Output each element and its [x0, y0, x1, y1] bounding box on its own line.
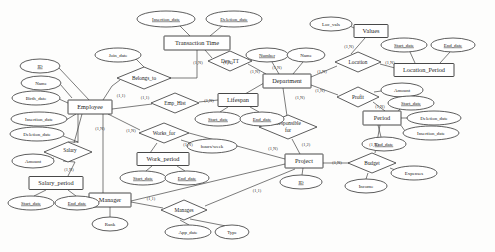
attribute-hours-week[interactable]: hours/week	[187, 139, 237, 153]
attribute-budget-income-label: Income	[359, 184, 374, 189]
attribute-lifespan-start-date[interactable]: Start_date	[195, 112, 241, 126]
attribute-period-insertion-date-label: Insertion_date	[417, 131, 445, 136]
attribute-work-period-end-date-label: End_date	[178, 176, 196, 181]
relationship-emp-hist[interactable]: Emp_Hist	[151, 93, 199, 113]
relationship-location-label: Location	[349, 59, 368, 65]
entity-location-period-label: Location_Period	[403, 66, 446, 73]
relationship-manages-label: Manages	[174, 207, 193, 213]
attribute-emp-insertion-date-label: Insertion_date	[25, 117, 53, 122]
entity-transaction-time-label: Transaction Time	[175, 39, 219, 46]
attribute-lifespan-end-date-label: End_date	[253, 117, 271, 122]
er-diagram-svg: Employee Transaction Time Lifespan Depar…	[0, 0, 495, 252]
cardinality-label: (1,N)	[250, 69, 260, 75]
attribute-salary-period-end-date[interactable]: End_date	[55, 196, 99, 210]
attribute-budget-income[interactable]: Income	[345, 179, 387, 193]
cardinality-label: (1,N)	[295, 95, 305, 101]
attribute-manages-app-date[interactable]: App_date	[165, 225, 211, 239]
entities-group: Employee Transaction Time Lifespan Depar…	[29, 25, 454, 208]
cardinality-label: (1,N)	[332, 160, 342, 166]
cardinality-label: (1,N)	[315, 88, 325, 94]
relationship-budget[interactable]: Budget	[348, 153, 396, 173]
attribute-emp-id[interactable]: ID	[20, 59, 60, 73]
cardinality-label: (1,2)	[302, 142, 311, 148]
cardinality-label: (1,1)	[141, 95, 150, 101]
attribute-period-deletion-date[interactable]: Deletion_date	[407, 111, 461, 125]
relationship-manages[interactable]: Manages	[161, 200, 207, 220]
attribute-hours-week-label: hours/week	[201, 144, 224, 149]
relationship-location[interactable]: Location	[335, 52, 381, 72]
entity-lifespan-label: Lifespan	[227, 96, 250, 103]
attribute-profit-amount-label: Amount	[394, 88, 411, 93]
entity-work-period-label: Work_period	[146, 155, 180, 162]
attribute-emp-id-label: ID	[37, 64, 43, 69]
attribute-salary-amount[interactable]: Amount	[12, 154, 54, 168]
attribute-emp-name[interactable]: Name	[21, 76, 61, 90]
entity-project[interactable]: Project	[285, 154, 323, 168]
attribute-lifespan-end-date[interactable]: End_date	[240, 112, 284, 126]
attribute-dept-name[interactable]: Name	[287, 48, 325, 62]
entity-salary-period[interactable]: Salary_period	[29, 177, 83, 190]
attribute-tt-insertion-date-label: Insertion_date	[152, 17, 180, 22]
entity-manager-label: Manager	[99, 196, 122, 203]
attribute-loc-vals[interactable]: Loc_vals	[310, 17, 352, 31]
relationship-profit-label: Profit	[352, 94, 365, 100]
cardinality-label: (1,N)	[64, 167, 74, 173]
attribute-tt-deletion-date[interactable]: Deletion_date	[206, 11, 262, 27]
entity-period[interactable]: Period	[363, 111, 401, 125]
attribute-work-period-end-date[interactable]: End_date	[165, 171, 209, 185]
attribute-location-period-start-date[interactable]: Start_date	[381, 38, 427, 52]
attribute-tt-insertion-date[interactable]: Insertion_date	[137, 11, 195, 27]
cardinality-label: (1,1)	[253, 188, 262, 194]
attribute-manager-rank-label: Rank	[105, 222, 116, 227]
entity-values[interactable]: Values	[354, 25, 388, 38]
attribute-emp-deletion-date-label: Deletion_date	[23, 132, 50, 137]
attribute-project-id[interactable]: ID	[280, 175, 322, 189]
attribute-join-date[interactable]: Join_date	[95, 48, 141, 62]
attribute-dept-number[interactable]: Number	[246, 48, 288, 62]
attribute-loc-vals-label: Loc_vals	[322, 22, 340, 27]
attribute-join-date-label: Join_date	[109, 53, 128, 58]
attribute-salary-period-start-date[interactable]: Start_date	[8, 196, 54, 210]
attribute-dept-number-label: Number	[259, 53, 275, 58]
relationship-salary-label: Salary	[63, 147, 77, 153]
entity-employee-label: Employee	[77, 103, 103, 110]
attribute-tt-deletion-date-label: Deletion_date	[220, 17, 247, 22]
attribute-location-period-end-date[interactable]: End_date	[431, 38, 475, 52]
attribute-emp-name-label: Name	[35, 81, 47, 86]
attribute-manages-type-label: Type	[227, 230, 237, 235]
attribute-emp-insertion-date[interactable]: Insertion_date	[11, 112, 67, 126]
er-diagram-canvas: Employee Transaction Time Lifespan Depar…	[0, 0, 495, 252]
cardinality-label: (1,1)	[117, 93, 126, 99]
cardinality-label: (1,1)	[147, 196, 156, 202]
entity-work-period[interactable]: Work_period	[137, 153, 189, 166]
entity-location-period[interactable]: Location_Period	[394, 64, 454, 77]
entity-department-label: Department	[272, 77, 302, 84]
attribute-salary-amount-label: Amount	[25, 159, 42, 164]
attribute-period-deletion-date-label: Deletion_date	[420, 116, 447, 121]
attribute-manager-rank[interactable]: Rank	[92, 217, 128, 231]
attribute-manages-type[interactable]: Type	[215, 225, 249, 239]
attribute-period-start-date-label: Start_date	[401, 101, 421, 106]
cardinality-label: (1,N)	[268, 146, 278, 152]
attribute-period-start-date[interactable]: Start_date	[388, 96, 434, 110]
entity-lifespan[interactable]: Lifespan	[218, 94, 258, 107]
cardinality-label: (1,N)	[193, 60, 203, 66]
attribute-lifespan-start-date-label: Start_date	[208, 117, 228, 122]
relationship-works-for-label: Works_for	[153, 130, 176, 136]
entity-transaction-time[interactable]: Transaction Time	[164, 36, 230, 50]
attribute-work-period-start-date-label: Start_date	[133, 176, 153, 181]
entity-department[interactable]: Department	[263, 74, 311, 88]
entity-salary-period-label: Salary_period	[38, 179, 74, 186]
attribute-emp-birth-date[interactable]: Birth_date	[12, 91, 60, 105]
cardinality-label: (1,N)	[95, 126, 105, 132]
attribute-profit-amount[interactable]: Amount	[381, 83, 423, 97]
entity-employee[interactable]: Employee	[68, 100, 112, 114]
attribute-budget-expenses[interactable]: Expenses	[391, 166, 437, 180]
attribute-emp-deletion-date[interactable]: Deletion_date	[10, 127, 64, 141]
relationship-profit[interactable]: Profit	[337, 87, 379, 107]
attribute-work-period-start-date[interactable]: Start_date	[120, 171, 166, 185]
relationship-budget-label: Budget	[364, 160, 380, 166]
attribute-period-insertion-date[interactable]: Insertion_date	[403, 126, 459, 140]
relationship-belongs-to[interactable]: Belongs_to	[117, 67, 171, 89]
cardinality-label: (1,N)	[375, 104, 385, 110]
